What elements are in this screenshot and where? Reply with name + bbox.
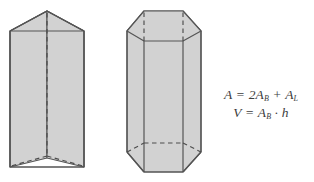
surface-area-equals: = (232, 87, 248, 102)
surface-area-term2-symbol: A (285, 87, 293, 102)
hexagonal-prism-top-face (127, 11, 201, 41)
volume-term1-symbol: A (258, 105, 266, 120)
surface-area-lhs: A (224, 87, 232, 102)
volume-dot: · (271, 105, 282, 120)
volume-equals: = (241, 105, 257, 120)
hexagonal-prism (127, 11, 201, 172)
volume-formula: V = AB · h (208, 106, 314, 124)
surface-area-term1-coefficient: 2 (249, 87, 256, 102)
formula-block: A = 2AB + AL V = AB · h (208, 88, 314, 124)
volume-term2-symbol: h (282, 105, 289, 120)
surface-area-plus: + (269, 87, 285, 102)
prism-formula-figure: A = 2AB + AL V = AB · h (0, 0, 314, 182)
triangular-prism (10, 11, 84, 167)
surface-area-term1-symbol: A (256, 87, 264, 102)
surface-area-term2-subscript: L (294, 94, 298, 103)
surface-area-formula: A = 2AB + AL (208, 88, 314, 106)
